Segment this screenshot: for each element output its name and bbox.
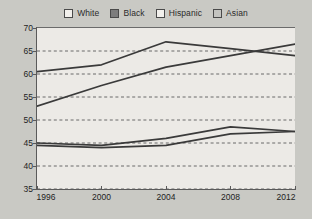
x-tick-label-2004: 2004 (157, 193, 176, 202)
x-tick-label-2012: 2012 (277, 193, 296, 202)
x-tick-mark-2000 (101, 186, 102, 190)
x-tick-mark-2008 (230, 186, 231, 190)
x-tick-mark-1996 (37, 186, 38, 190)
x-tick-mark-2004 (166, 186, 167, 190)
x-axis-ticks: 19962000200420082012 (0, 0, 312, 219)
x-tick-mark-2012 (295, 186, 296, 190)
x-tick-label-2000: 2000 (92, 193, 111, 202)
x-tick-label-1996: 1996 (37, 193, 56, 202)
x-tick-label-2008: 2008 (221, 193, 240, 202)
chart-container: White Black Hispanic Asian 7065605550454… (0, 0, 312, 219)
